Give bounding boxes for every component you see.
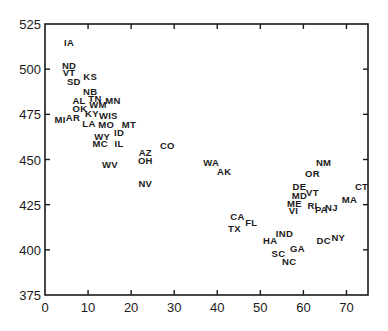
x-tick-label: 50 [253,300,267,315]
point-label: IL [115,138,124,149]
point-label: DC [316,235,330,246]
data-points: IANDVTKSSDNBTNMNALWMOKKYWISMIARLAMOMTWYI… [54,37,368,267]
x-tick-label: 60 [296,300,310,315]
point-label: FL [245,217,257,228]
point-label: MI [54,114,65,125]
x-tick-label: 10 [81,300,95,315]
point-label: IND [276,228,293,239]
y-tick-label: 525 [19,17,41,32]
point-label: OH [138,155,153,166]
point-label: AK [217,166,231,177]
point-label: AR [66,112,80,123]
point-label: CA [230,211,244,222]
scatter-chart: 010203040506070 375400425450475500525 IA… [0,0,388,331]
point-label: VT [306,187,319,198]
y-tick-label: 500 [19,62,41,77]
point-label: WV [102,159,118,170]
x-tick-label: 20 [124,300,138,315]
point-label: NJ [325,202,338,213]
point-label: NY [331,232,345,243]
point-label: MO [98,119,114,130]
y-tick-label: 425 [19,198,41,213]
point-label: NV [138,178,152,189]
point-label: HA [263,235,277,246]
point-label: SD [67,76,81,87]
point-label: NM [316,157,331,168]
point-label: CT [355,181,368,192]
point-label: VI [289,205,299,216]
y-tick-label: 400 [19,243,41,258]
point-label: KS [83,71,97,82]
x-tick-label: 0 [41,300,48,315]
x-tick-label: 30 [167,300,181,315]
x-tick-label: 40 [210,300,224,315]
point-label: TX [228,223,241,234]
point-label: MA [342,194,357,205]
y-tick-label: 375 [19,288,41,303]
point-label: IA [64,37,74,48]
point-label: OR [305,168,320,179]
point-label: GA [290,243,305,254]
point-label: LA [82,118,95,129]
y-tick-label: 475 [19,107,41,122]
y-tick-label: 450 [19,153,41,168]
point-label: CO [160,140,175,151]
point-label: NC [282,256,296,267]
x-tick-label: 70 [339,300,353,315]
point-label: MN [105,95,120,106]
point-label: MC [92,138,107,149]
